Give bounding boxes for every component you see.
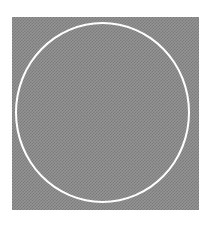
- circle-outline: [15, 22, 190, 203]
- image-canvas: [0, 0, 210, 227]
